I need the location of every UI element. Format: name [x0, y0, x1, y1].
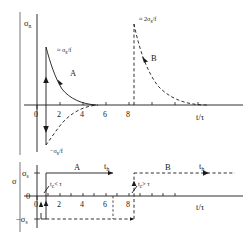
upper-annotation-peak-a: ≈ σs/f	[57, 46, 72, 55]
upper-annotation-neg: −σs/f	[50, 147, 64, 156]
upper-ticklabel-0: 0	[34, 110, 38, 119]
tc-right-rel: > τ	[142, 180, 150, 187]
lower-arrow-up-a	[44, 201, 49, 207]
upper-y-axis-label: σn	[24, 18, 32, 29]
lower-arrow-up-a2	[39, 202, 43, 208]
upper-xlabel-den: τ	[201, 112, 205, 122]
lower-ticklabel-2: 2	[57, 200, 61, 209]
lower-leader-tc-right	[132, 186, 137, 193]
svg-text:tc< τ: tc< τ	[50, 180, 62, 189]
svg-text:σs: σs	[22, 168, 29, 179]
upper-ticklabel-4: 4	[80, 110, 84, 119]
lower-xlabel-den: τ	[201, 202, 205, 212]
svg-text:−σs: −σs	[16, 214, 28, 225]
lower-ybot-sub: s	[25, 219, 27, 225]
lower-ybot: −σ	[16, 214, 26, 224]
lower-x-axis-label: t/τ	[196, 202, 205, 212]
upper-ylabel-sub: n	[29, 23, 32, 29]
upper-curve-a-label: A	[70, 68, 77, 78]
svg-text:t/τ: t/τ	[196, 202, 205, 212]
lower-curve-a-label: A	[74, 162, 81, 172]
lower-ybot-label: −σs	[16, 214, 28, 225]
lower-tc-right-label: tc> τ	[138, 180, 150, 189]
lower-leader-tc-left	[44, 186, 49, 193]
lower-panel: A th B th tc< τ tc> τ	[12, 161, 243, 232]
lower-ticklabel-4: 4	[80, 200, 84, 209]
peak-a-tail: /f	[67, 46, 72, 53]
svg-text:th: th	[104, 161, 109, 172]
upper-curve-b-arrow	[142, 57, 148, 63]
tc-left-rel: < τ	[54, 180, 62, 187]
upper-arrow-down-a	[43, 126, 49, 133]
upper-arrow-up-a	[43, 77, 49, 84]
upper-x-axis-label: t/τ	[196, 112, 205, 122]
lower-th-left-label: th	[104, 161, 109, 172]
svg-text:−σs/f: −σs/f	[50, 147, 64, 156]
figure-canvas: ≈ σs/f ≈ 2σs/f −σs/f A B σn	[0, 0, 246, 241]
lower-ticklabel-6: 6	[103, 200, 107, 209]
lower-yzero-label: 0	[26, 191, 30, 201]
svg-text:tc> τ: tc> τ	[138, 180, 150, 189]
lower-ylabel: σ	[12, 176, 17, 186]
upper-ticklabel-8: 8	[126, 110, 130, 119]
upper-ticklabel-2: 2	[57, 110, 61, 119]
neg-tail: /f	[59, 147, 64, 154]
upper-curve-b-decay	[134, 24, 207, 105]
lower-ticklabel-0: 0	[34, 200, 38, 209]
figure-root: ≈ σs/f ≈ 2σs/f −σs/f A B σn	[0, 0, 246, 241]
svg-text:≈ 2σs/f: ≈ 2σs/f	[139, 15, 157, 24]
upper-panel: ≈ σs/f ≈ 2σs/f −σs/f A B σn	[20, 12, 243, 156]
lower-th-right-label: th	[199, 161, 204, 172]
th-right-sub: h	[201, 166, 204, 172]
lower-ytop-label: σs	[22, 168, 29, 179]
peak-b-tail: /f	[153, 15, 158, 22]
th-left-sub: h	[106, 166, 109, 172]
svg-text:≈ σs/f: ≈ σs/f	[57, 46, 72, 55]
lower-curve-b-label: B	[165, 162, 171, 172]
lower-tc-left-label: tc< τ	[50, 180, 62, 189]
lower-ticklabel-8: 8	[126, 200, 130, 209]
svg-text:σn: σn	[24, 18, 32, 29]
upper-curve-b-label: B	[151, 53, 157, 63]
svg-text:th: th	[199, 161, 204, 172]
lower-ytop-sub: s	[27, 173, 29, 179]
upper-ticklabel-6: 6	[103, 110, 107, 119]
upper-curve-a-recovery	[46, 105, 98, 145]
peak-b-label: ≈ 2σ	[139, 15, 151, 22]
upper-annotation-peak-b: ≈ 2σs/f	[139, 15, 157, 24]
svg-text:t/τ: t/τ	[196, 112, 205, 122]
lower-arrow-up-b	[132, 181, 137, 187]
